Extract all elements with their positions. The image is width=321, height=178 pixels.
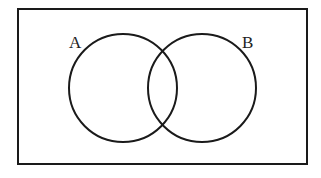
set-a-circle <box>69 34 177 142</box>
set-b-circle <box>148 34 256 142</box>
set-b-label: B <box>242 33 253 52</box>
universe-rectangle <box>18 9 307 164</box>
set-a-label: A <box>69 33 82 52</box>
venn-diagram: A B <box>0 0 321 178</box>
